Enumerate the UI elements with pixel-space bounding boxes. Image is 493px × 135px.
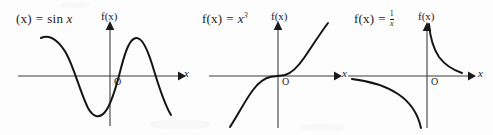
x-axis-arrow-sin bbox=[178, 72, 186, 81]
panel-cube: f(x)=x3 f(x) x O bbox=[195, 0, 355, 135]
curve-cube bbox=[230, 23, 328, 127]
plot-reciprocal bbox=[340, 0, 493, 135]
function-graphs-figure: (x)=sin x f(x) x O f(x)=x3 f(x) x O bbox=[0, 0, 493, 135]
plot-cube bbox=[195, 0, 355, 135]
curve-reciprocal-positive bbox=[429, 24, 462, 73]
y-axis-arrow-sin bbox=[106, 21, 115, 30]
curve-reciprocal-negative bbox=[352, 79, 421, 128]
panel-sin: (x)=sin x f(x) x O bbox=[0, 0, 200, 135]
plot-sin bbox=[0, 0, 200, 135]
y-axis-arrow-cube bbox=[274, 21, 283, 30]
panel-reciprocal: f(x)=1x f(x) x O bbox=[340, 0, 493, 135]
x-axis-arrow-reciprocal bbox=[468, 72, 476, 81]
